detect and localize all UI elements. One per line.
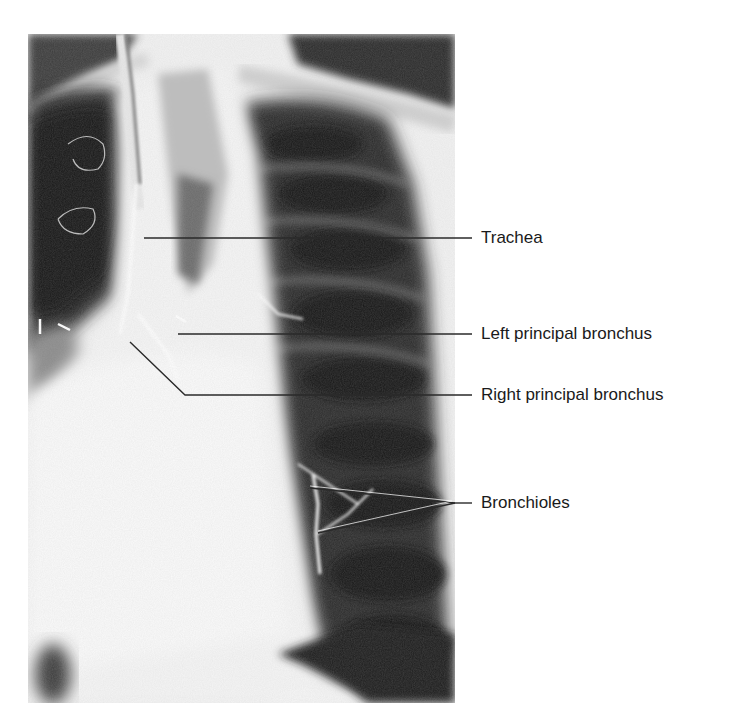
annotated-xray-figure: Trachea Left principal bronchus Right pr… xyxy=(0,0,731,725)
label-trachea: Trachea xyxy=(481,228,543,248)
label-right-principal-bronchus: Right principal bronchus xyxy=(481,385,663,405)
label-left-principal-bronchus: Left principal bronchus xyxy=(481,324,652,344)
label-bronchioles: Bronchioles xyxy=(481,493,570,513)
chest-xray-image xyxy=(28,34,455,703)
